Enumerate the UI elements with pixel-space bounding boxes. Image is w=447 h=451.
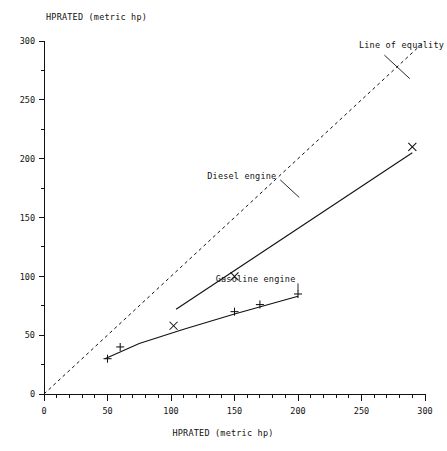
x-tick-label: 50: [102, 406, 112, 416]
y-tick-label: 150: [20, 213, 35, 223]
y-tick-label: 300: [20, 36, 35, 46]
series-gasoline-engine: [104, 290, 303, 363]
x-axis-title: HPRATED (metric hp): [172, 428, 273, 438]
annotation-diesel-engine: Diesel engine: [207, 171, 276, 181]
y-tick-label: 50: [25, 330, 35, 340]
scatter-plot-canvas: 050100150200250300 050100150200250300 Li…: [0, 0, 447, 451]
data-point-marker: [170, 322, 178, 330]
x-axis: 050100150200250300: [41, 394, 432, 416]
series-line-of-equality: [44, 41, 425, 394]
y-tick-label: 250: [20, 95, 35, 105]
y-tick-label: 0: [30, 389, 35, 399]
series-annotations: Line of equalityDiesel engineGasoline en…: [207, 40, 444, 291]
x-tick-label: 250: [354, 406, 369, 416]
x-tick-label: 0: [41, 406, 46, 416]
data-point-marker: [116, 343, 124, 351]
x-tick-label: 200: [290, 406, 305, 416]
data-point-marker: [408, 143, 416, 151]
annotation-line-of-equality: Line of equality: [359, 40, 444, 50]
y-axis: 050100150200250300: [20, 36, 44, 399]
annotation-gasoline-engine: Gasoline engine: [216, 274, 296, 284]
x-tick-label: 300: [417, 406, 432, 416]
data-series-group: [44, 41, 425, 394]
x-tick-label: 150: [227, 406, 242, 416]
y-axis-title: HPRATED (metric hp): [46, 12, 147, 22]
y-tick-label: 200: [20, 154, 35, 164]
chart-figure: 050100150200250300 050100150200250300 Li…: [0, 0, 447, 451]
y-tick-label: 100: [20, 272, 35, 282]
x-tick-label: 100: [163, 406, 178, 416]
